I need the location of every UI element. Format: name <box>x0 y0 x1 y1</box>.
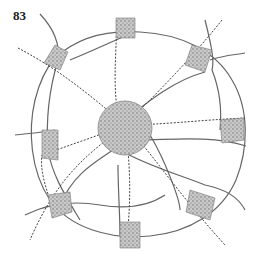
satellite-town <box>120 222 140 248</box>
road <box>25 195 165 215</box>
central-town <box>98 101 152 155</box>
satellite-town <box>48 192 72 218</box>
satellite-town <box>185 45 212 72</box>
satellite-town <box>116 18 135 38</box>
road <box>205 20 221 130</box>
road <box>150 135 180 210</box>
radial-city-diagram <box>0 0 264 260</box>
satellite-town <box>186 190 215 220</box>
satellite-town <box>220 118 244 143</box>
satellite-town <box>44 45 68 70</box>
road <box>210 53 245 60</box>
satellite-town <box>42 130 58 160</box>
road <box>120 150 245 210</box>
